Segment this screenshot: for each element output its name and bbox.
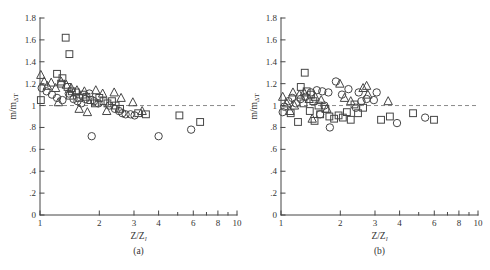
y-tick-label: 1.4 (266, 57, 278, 67)
x-tick-label: 6 (191, 218, 196, 228)
data-point-square (326, 113, 333, 120)
y-tick-label: .8 (270, 122, 277, 132)
y-tick-label: 1.6 (266, 35, 278, 45)
x-tick-label: 1 (279, 218, 284, 228)
y-tick-label: 1.8 (266, 13, 278, 23)
y-tick-label: 1.6 (25, 35, 37, 45)
data-point-circle (355, 89, 362, 96)
data-point-circle (326, 124, 333, 131)
data-point-circle (421, 114, 428, 121)
data-point-square (176, 112, 183, 119)
y-tick-label: .8 (29, 122, 36, 132)
panel-a-caption: (a) (133, 246, 144, 256)
y-tick-label: 1.2 (25, 79, 36, 89)
data-point-square (301, 69, 308, 76)
y-tick-label: .4 (270, 166, 277, 176)
y-tick-label: .4 (29, 166, 36, 176)
data-point-square (386, 113, 393, 120)
y-tick-label: 0 (273, 210, 278, 220)
panel-b: 0.2.4.6.811.21.41.61.812346810Z/Zlm/mΔT (249, 13, 483, 243)
y-tick-label: 1.8 (25, 13, 37, 23)
panel-a: 0.2.4.6.811.21.41.61.812346810Z/Zlm/mΔT (8, 13, 242, 243)
y-tick-label: .2 (270, 188, 277, 198)
data-point-triangle (110, 88, 118, 96)
data-point-triangle (129, 98, 137, 106)
data-point-circle (345, 85, 352, 92)
x-tick-label: 6 (432, 218, 437, 228)
data-point-circle (393, 119, 400, 126)
y-axis-label: m/mΔT (249, 93, 261, 120)
x-tick-label: 8 (457, 218, 462, 228)
y-tick-label: 1.2 (266, 79, 277, 89)
y-tick-label: 1 (32, 101, 37, 111)
y-tick-label: 0 (32, 210, 37, 220)
scatter-figure-svg: 0.2.4.6.811.21.41.61.812346810Z/Zlm/mΔT0… (0, 0, 490, 270)
two-panel-scatter-figure: 0.2.4.6.811.21.41.61.812346810Z/Zlm/mΔT0… (0, 0, 490, 270)
y-tick-label: 1 (273, 101, 278, 111)
data-point-circle (88, 133, 95, 140)
y-tick-label: .2 (29, 188, 36, 198)
x-tick-label: 2 (97, 218, 102, 228)
data-point-square (347, 116, 354, 123)
data-point-square (378, 116, 385, 123)
data-point-square (410, 110, 417, 117)
data-point-triangle (83, 108, 91, 116)
x-tick-label: 4 (397, 218, 402, 228)
data-point-square (62, 34, 69, 41)
data-point-square (295, 119, 302, 126)
data-point-square (37, 97, 44, 104)
data-point-triangle (308, 114, 316, 122)
data-point-triangle (384, 97, 392, 105)
x-axis-label: Z/Zl (371, 231, 387, 243)
x-tick-label: 10 (233, 218, 243, 228)
y-axis-label: m/mΔT (8, 93, 20, 120)
data-point-circle (187, 126, 194, 133)
data-point-circle (373, 89, 380, 96)
data-point-square (431, 116, 438, 123)
x-tick-label: 4 (156, 218, 161, 228)
y-tick-label: 1.4 (25, 57, 37, 67)
x-tick-label: 2 (338, 218, 343, 228)
x-tick-label: 1 (38, 218, 43, 228)
x-tick-label: 8 (216, 218, 221, 228)
y-tick-label: .6 (270, 144, 277, 154)
data-point-circle (155, 133, 162, 140)
y-tick-label: .6 (29, 144, 36, 154)
data-point-square (66, 51, 73, 58)
x-tick-label: 3 (132, 218, 137, 228)
panel-b-caption: (b) (374, 246, 385, 256)
data-point-square (197, 119, 204, 126)
x-axis-label: Z/Zl (130, 231, 146, 243)
x-tick-label: 10 (474, 218, 484, 228)
x-tick-label: 3 (373, 218, 378, 228)
